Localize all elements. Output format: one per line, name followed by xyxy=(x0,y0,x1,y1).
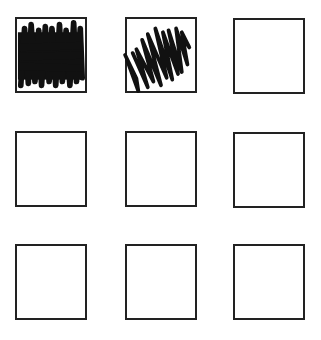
grid-cell-r3-c3[interactable] xyxy=(233,244,305,320)
scribble-diagonal-icon xyxy=(127,19,195,91)
grid-cell-r3-c1[interactable] xyxy=(15,244,87,320)
grid-cell-r1-c2-scribbled[interactable] xyxy=(125,17,197,93)
grid-cell-r3-c2[interactable] xyxy=(125,244,197,320)
scribble-fill-icon xyxy=(17,19,85,91)
grid-cell-r1-c1-scribbled[interactable] xyxy=(15,17,87,93)
grid-cell-r2-c3[interactable] xyxy=(233,132,305,208)
grid-cell-r2-c1[interactable] xyxy=(15,131,87,207)
grid-cell-r1-c3[interactable] xyxy=(233,18,305,94)
grid-cell-r2-c2[interactable] xyxy=(125,131,197,207)
